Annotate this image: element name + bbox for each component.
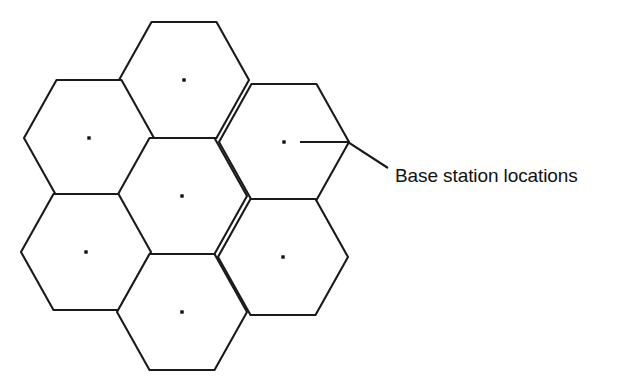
cellular-hexagon-figure: Base station locations [0,0,632,386]
base-station-locations-label: Base station locations [395,165,578,187]
base-station-dot [87,136,90,139]
hexagon-cluster-diagram [0,0,632,386]
base-station-dot [282,140,285,143]
base-station-dot [180,310,183,313]
hexagon-cells-group [21,22,349,370]
base-station-dot [180,194,183,197]
base-station-dot [281,255,284,258]
base-station-dot [84,250,87,253]
base-station-dot [182,78,185,81]
